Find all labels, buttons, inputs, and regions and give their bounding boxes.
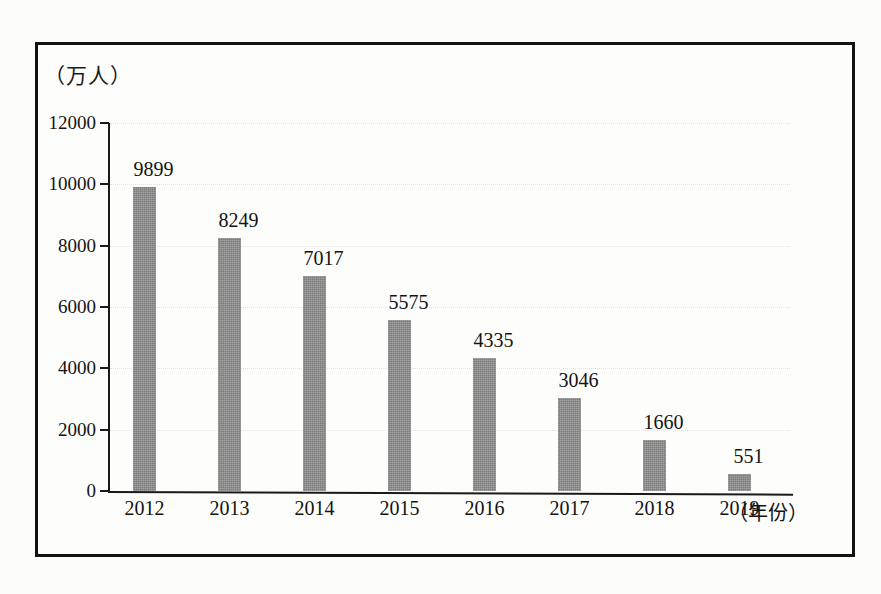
bar [473, 358, 496, 491]
y-axis-tick-label: 4000 [38, 357, 96, 379]
gridline [110, 246, 790, 247]
bar [728, 474, 751, 491]
bar-value-label: 9899 [114, 158, 194, 181]
cutoff-caption-sliver [330, 583, 630, 594]
x-axis-tick-label: 2016 [445, 497, 525, 520]
x-axis-tick-label: 2014 [275, 497, 355, 520]
gridline [110, 368, 790, 369]
y-axis-tick-label: 0 [38, 480, 96, 502]
x-axis-tick-label: 2012 [105, 497, 185, 520]
x-axis-line [108, 491, 793, 496]
x-axis-unit-label: （年份） [728, 497, 808, 526]
bar [558, 398, 581, 491]
y-axis-tick-label: 2000 [38, 419, 96, 441]
y-axis-tick-label: 6000 [38, 296, 96, 318]
bar [218, 238, 241, 491]
y-axis-tick-label: 10000 [38, 173, 96, 195]
x-axis-tick-label: 2017 [530, 497, 610, 520]
chart-plot-area: （万人） 120001000080006000400020000 9899824… [38, 45, 852, 554]
bar-value-label: 5575 [369, 291, 449, 314]
chart-frame-border: （万人） 120001000080006000400020000 9899824… [35, 42, 855, 557]
bar-value-label: 3046 [539, 369, 619, 392]
x-axis-tick-label: 2013 [190, 497, 270, 520]
bar-value-label: 8249 [199, 209, 279, 232]
y-axis-tick-label: 12000 [38, 112, 96, 134]
y-axis-line [108, 123, 110, 491]
bar-value-label: 7017 [284, 247, 364, 270]
bar-value-label: 4335 [454, 329, 534, 352]
x-axis-tick-label: 2018 [615, 497, 695, 520]
bar-value-label: 1660 [624, 411, 704, 434]
bar [133, 187, 156, 491]
gridline [110, 123, 790, 124]
gridline [110, 184, 790, 185]
bar [643, 440, 666, 491]
bar [388, 320, 411, 491]
x-axis-tick-label: 2015 [360, 497, 440, 520]
bar [303, 276, 326, 491]
y-axis-unit-label: （万人） [44, 59, 132, 89]
bar-value-label: 551 [709, 445, 789, 468]
gridline [110, 307, 790, 308]
y-axis-tick-label: 8000 [38, 235, 96, 257]
